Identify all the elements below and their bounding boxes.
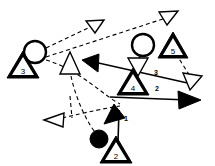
- agent-4-label: 4: [131, 84, 136, 93]
- agent-2-label: 2: [114, 152, 119, 161]
- solid-path-edge-2: [110, 97, 188, 100]
- solid-path-group: [94, 62, 192, 142]
- open-arrowhead-right-down: [183, 73, 202, 90]
- open-arrowhead-top-left: [86, 20, 104, 33]
- filled-arrowhead-right: [178, 91, 201, 109]
- filled-arrowhead-left: [82, 54, 99, 72]
- circle-marker-center: [132, 34, 154, 56]
- edge-label-2: 2: [155, 85, 159, 92]
- circle-marker-filled-bottom: [90, 130, 108, 148]
- dashed-path-left-to-topleft: [46, 26, 92, 48]
- agent-5-label: 5: [171, 47, 176, 56]
- agent-node-4: 4: [117, 68, 149, 95]
- filled-arrowhead-up: [104, 104, 125, 124]
- open-arrowhead-top-right: [159, 11, 178, 25]
- edge-label-3: 3: [154, 69, 158, 76]
- trajectory-diagram-figure: 3 4 5 2 1 2 3: [0, 0, 215, 166]
- diagram-canvas: 3 4 5 2 1 2 3: [0, 0, 215, 166]
- dashed-path-vertical-lower: [70, 96, 72, 118]
- open-arrowhead-lower-left: [44, 113, 64, 127]
- edge-label-1: 1: [124, 115, 128, 122]
- agent-node-5: 5: [158, 32, 188, 58]
- open-arrowhead-mid-left: [60, 52, 80, 74]
- agent-3-label: 3: [21, 67, 26, 76]
- dashed-path-left-curve-lower: [46, 60, 120, 104]
